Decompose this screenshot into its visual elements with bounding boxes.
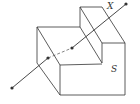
solid-s (37, 7, 125, 95)
point-1 (10, 86, 13, 89)
label-x: X (106, 1, 114, 11)
point-3 (70, 46, 73, 49)
label-s: S (111, 64, 117, 74)
point-2 (46, 56, 49, 59)
point-4 (124, 2, 127, 5)
line-points (10, 2, 127, 89)
line-x (12, 4, 126, 88)
diagram-canvas: X S (0, 0, 140, 104)
